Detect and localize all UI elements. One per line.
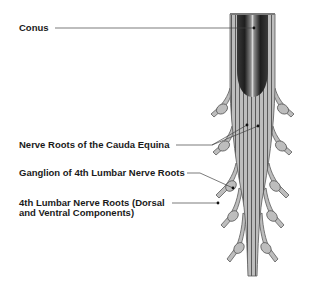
label-ganglion-4th-lumbar: Ganglion of 4th Lumbar Nerve Roots xyxy=(19,168,185,178)
section-cut-edge xyxy=(230,13,275,15)
label-conus: Conus xyxy=(19,23,49,33)
label-nerve-roots-cauda-equina: Nerve Roots of the Cauda Equina xyxy=(19,140,169,150)
conus-medullaris xyxy=(237,14,268,97)
label-4th-lumbar-roots-line2: and Ventral Components) xyxy=(19,208,134,218)
